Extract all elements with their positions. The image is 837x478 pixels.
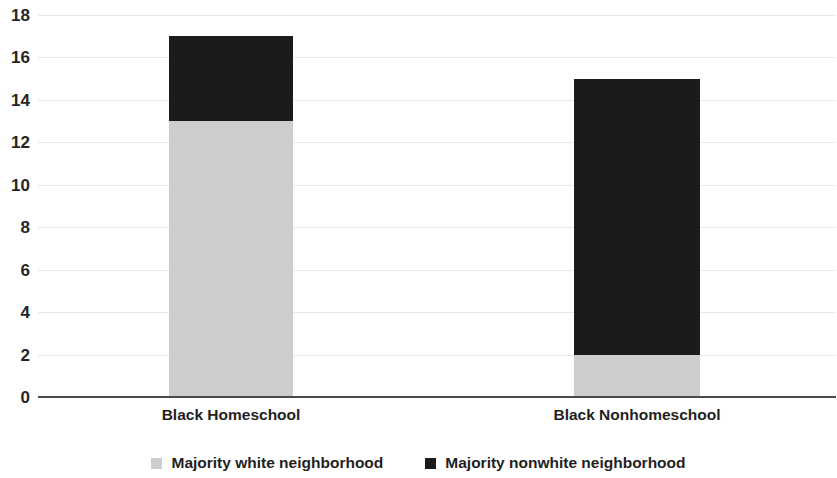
y-tick-label-0: 0: [0, 389, 30, 406]
bar-segment: [169, 36, 293, 121]
gridline-14: [38, 100, 836, 101]
stacked-bar-chart: 024681012141618 Black HomeschoolBlack No…: [0, 0, 837, 478]
legend-label: Majority white neighborhood: [171, 455, 383, 471]
y-tick-label-18: 18: [0, 7, 30, 24]
y-tick-label-16: 16: [0, 49, 30, 66]
y-tick-label-2: 2: [0, 346, 30, 363]
gridline-8: [38, 227, 836, 228]
bar-segment: [574, 355, 700, 397]
gridline-2: [38, 355, 836, 356]
plot-area: [38, 15, 836, 397]
x-axis-line: [38, 396, 836, 398]
y-axis: 024681012141618: [0, 0, 30, 478]
legend-label: Majority nonwhite neighborhood: [445, 455, 685, 471]
gridline-4: [38, 312, 836, 313]
legend-entry[interactable]: Majority white neighborhood: [151, 455, 383, 471]
gridline-12: [38, 142, 836, 143]
legend-entry[interactable]: Majority nonwhite neighborhood: [425, 455, 685, 471]
y-tick-label-10: 10: [0, 176, 30, 193]
bar-segment: [574, 79, 700, 355]
bar-segment: [169, 121, 293, 397]
gridline-10: [38, 185, 836, 186]
y-tick-label-4: 4: [0, 304, 30, 321]
legend-swatch-majority-white: [151, 458, 162, 469]
category-label: Black Homeschool: [162, 406, 301, 425]
gridline-18: [38, 15, 836, 16]
chart-legend: Majority white neighborhoodMajority nonw…: [0, 450, 837, 476]
y-tick-label-6: 6: [0, 261, 30, 278]
y-tick-label-8: 8: [0, 219, 30, 236]
y-tick-label-12: 12: [0, 134, 30, 151]
legend-swatch-majority-nonwhite: [425, 458, 436, 469]
y-tick-label-14: 14: [0, 91, 30, 108]
category-label: Black Nonhomeschool: [553, 406, 720, 425]
gridline-16: [38, 57, 836, 58]
gridline-6: [38, 270, 836, 271]
